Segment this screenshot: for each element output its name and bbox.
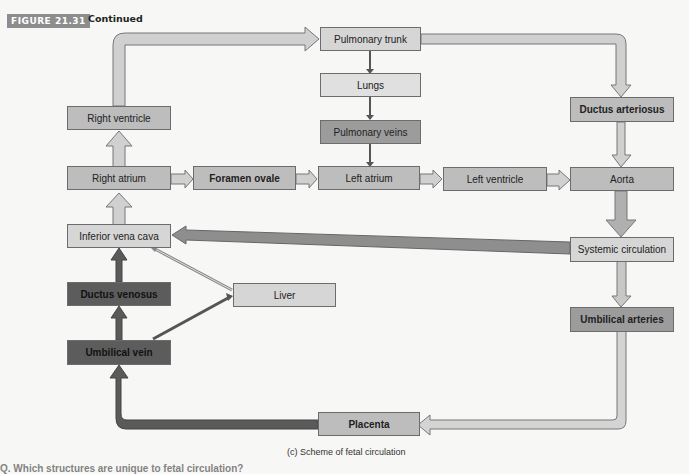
figure-caption: (c) Scheme of fetal circulation bbox=[287, 447, 406, 457]
arrow-rv-to-pulmonary-trunk bbox=[113, 27, 319, 106]
node-left-ventricle: Left ventricle bbox=[443, 167, 547, 191]
node-pulmonary-veins: Pulmonary veins bbox=[320, 120, 421, 144]
node-right-atrium: Right atrium bbox=[67, 166, 171, 190]
node-pulmonary-trunk: Pulmonary trunk bbox=[320, 27, 421, 51]
node-aorta: Aorta bbox=[570, 167, 674, 191]
node-umbilical-vein: Umbilical vein bbox=[67, 340, 171, 365]
node-systemic-circulation: Systemic circulation bbox=[570, 237, 674, 262]
node-lungs: Lungs bbox=[320, 73, 421, 97]
node-right-ventricle: Right ventricle bbox=[67, 106, 171, 130]
arrow-pulmonary-trunk-to-ductus-arteriosus bbox=[421, 34, 631, 97]
node-left-atrium: Left atrium bbox=[318, 166, 420, 190]
node-ductus-arteriosus: Ductus arteriosus bbox=[570, 97, 674, 122]
node-placenta: Placenta bbox=[318, 412, 420, 436]
node-liver: Liver bbox=[233, 283, 336, 307]
node-umbilical-arteries: Umbilical arteries bbox=[570, 307, 674, 332]
question-fragment: Q. Which structures are unique to fetal … bbox=[0, 463, 243, 474]
node-inferior-vena-cava: Inferior vena cava bbox=[67, 224, 171, 248]
node-foramen-ovale: Foramen ovale bbox=[193, 166, 296, 190]
node-ductus-venosus: Ductus venosus bbox=[67, 282, 171, 306]
